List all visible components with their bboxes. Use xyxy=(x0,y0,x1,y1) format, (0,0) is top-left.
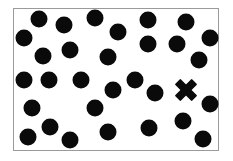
dot-icon xyxy=(62,42,79,59)
dot-icon xyxy=(140,12,157,29)
dot-icon xyxy=(191,52,208,69)
dot-icon xyxy=(175,113,192,130)
dot-icon xyxy=(31,11,48,28)
dot-icon xyxy=(87,10,104,27)
dot-icon xyxy=(16,30,33,47)
dot-icon xyxy=(110,24,127,41)
dot-icon xyxy=(141,120,158,137)
dot-icon xyxy=(140,36,157,53)
dot-icon xyxy=(24,100,41,117)
dot-icon xyxy=(62,132,79,149)
dot-icon xyxy=(100,49,117,66)
dot-icon xyxy=(16,72,33,89)
dot-icon xyxy=(73,72,90,89)
dot-icon xyxy=(41,72,58,89)
dot-icon xyxy=(169,36,186,53)
dot-icon xyxy=(147,85,164,102)
dot-icon xyxy=(202,30,219,47)
dot-icon xyxy=(202,96,219,113)
cross-icon xyxy=(176,80,196,100)
dot-icon xyxy=(42,119,59,136)
dot-icon xyxy=(127,72,144,89)
dot-icon xyxy=(105,82,122,99)
dot-icon xyxy=(35,48,52,65)
dot-icon xyxy=(178,14,195,31)
dot-icon xyxy=(56,17,73,34)
dot-icon xyxy=(87,100,104,117)
dot-icon xyxy=(195,131,212,148)
dot-icon xyxy=(100,124,117,141)
dot-icon xyxy=(20,129,37,146)
